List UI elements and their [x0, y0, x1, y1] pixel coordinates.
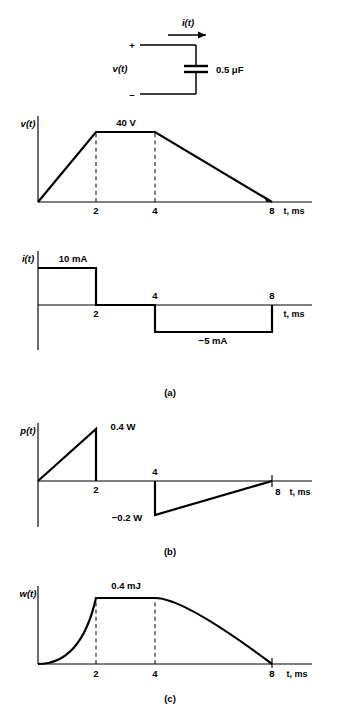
- w-plot-peak-label: 0.4 mJ: [111, 580, 141, 591]
- figure-page: i(t) + – v(t) 0.5 μF: [0, 0, 340, 712]
- w-plot-xtick-8: 8: [269, 668, 274, 679]
- panel-label-c-wrap: (c): [0, 688, 340, 706]
- minus-sign: –: [129, 89, 134, 100]
- i-plot: i(t) 10 mA −5 mA 2 4 8 t, ms: [0, 245, 340, 365]
- w-plot: w(t) 0.4 mJ 2 4 8 t, ms: [0, 572, 340, 684]
- panel-label-b-wrap: (b): [0, 541, 340, 559]
- w-plot-y-label: w(t): [20, 588, 37, 599]
- i-plot-negative-label: −5 mA: [199, 335, 228, 346]
- p-plot-xtick-4: 4: [152, 466, 158, 477]
- p-plot: p(t) 0.4 W −0.2 W 2 4 8 t, ms: [0, 415, 340, 540]
- i-plot-positive-label: 10 mA: [59, 253, 88, 264]
- circuit-voltage-label: v(t): [113, 63, 128, 74]
- p-plot-negative-label: −0.2 W: [112, 512, 142, 523]
- current-arrow-head: [198, 32, 206, 39]
- p-plot-y-label: p(t): [19, 425, 35, 436]
- i-plot-xtick-8: 8: [269, 290, 274, 301]
- v-plot-xtick-2: 2: [93, 205, 98, 216]
- plus-sign: +: [129, 40, 135, 51]
- w-plot-xtick-2: 2: [93, 668, 98, 679]
- v-plot-y-label: v(t): [21, 118, 36, 129]
- w-plot-x-label: t, ms: [286, 669, 307, 679]
- panel-label-a-wrap: (a): [0, 382, 340, 400]
- w-plot-xtick-4: 4: [152, 668, 158, 679]
- p-plot-negative-triangle: [155, 481, 272, 515]
- circuit-diagram: i(t) + – v(t) 0.5 μF: [0, 8, 340, 106]
- p-plot-xtick-2: 2: [93, 484, 98, 495]
- v-plot: v(t) 40 V 2 4 8 t, ms: [0, 110, 340, 215]
- p-plot-positive-label: 0.4 W: [111, 421, 136, 432]
- i-plot-xtick-2: 2: [93, 308, 98, 319]
- v-plot-xtick-4: 4: [152, 205, 158, 216]
- p-plot-positive-triangle: [38, 429, 96, 481]
- v-plot-x-label: t, ms: [283, 206, 304, 216]
- panel-label-b: (b): [164, 546, 176, 557]
- i-plot-x-label: t, ms: [283, 309, 304, 319]
- v-plot-xtick-8: 8: [269, 205, 274, 216]
- capacitance-label: 0.5 μF: [216, 64, 244, 75]
- p-plot-xtick-8: 8: [275, 486, 280, 497]
- circuit-current-label: i(t): [182, 17, 194, 28]
- i-plot-y-label: i(t): [22, 253, 34, 264]
- i-plot-xtick-4: 4: [152, 290, 158, 301]
- panel-label-a: (a): [164, 387, 176, 398]
- v-plot-peak-label: 40 V: [116, 117, 136, 128]
- p-plot-x-label: t, ms: [289, 487, 310, 497]
- panel-label-c: (c): [164, 693, 176, 704]
